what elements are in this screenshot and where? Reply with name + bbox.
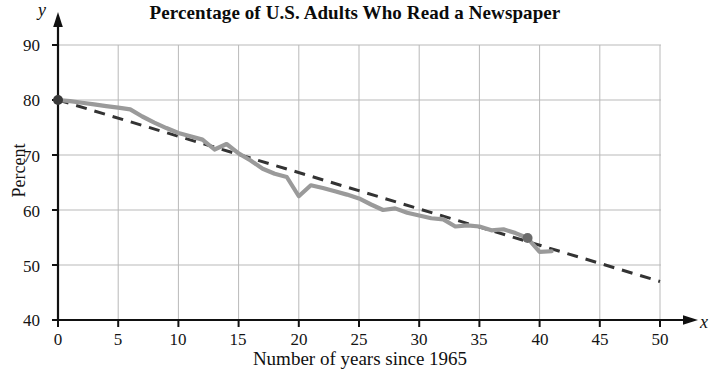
grid-lines bbox=[58, 45, 661, 320]
chart-figure: Percentage of U.S. Adults Who Read a New… bbox=[0, 0, 722, 378]
origin-data-point bbox=[53, 95, 63, 105]
axis-lines bbox=[53, 12, 698, 325]
highlighted-data-point bbox=[523, 233, 533, 243]
chart-plot-area bbox=[0, 0, 722, 378]
